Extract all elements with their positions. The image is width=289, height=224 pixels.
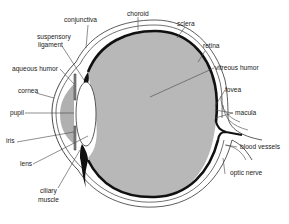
iris-lower (74, 126, 76, 150)
blood-vessels-shape (216, 122, 242, 140)
label-ligament: ligament (38, 41, 63, 49)
lens (76, 82, 96, 146)
label-macula: macula (235, 109, 257, 116)
label-iris: iris (6, 137, 15, 144)
optic-nerve-inner-lines (221, 96, 248, 160)
label-lens: lens (20, 160, 33, 167)
label-ciliary: ciliary (40, 187, 58, 195)
label-suspensory: suspensory (37, 33, 71, 41)
label-muscle: muscle (38, 196, 59, 203)
label-optic-nerve: optic nerve (230, 169, 263, 177)
label-pupil: pupil (10, 109, 24, 117)
iris-upper (74, 74, 76, 100)
label-conjunctiva: conjunctiva (64, 16, 97, 24)
aqueous-humor-region (60, 84, 74, 144)
label-choroid: choroid (127, 10, 149, 17)
label-vitreous-humor: vitreous humor (215, 64, 259, 71)
optic-nerve-sheath (228, 118, 262, 160)
label-aqueous-humor: aqueous humor (12, 65, 59, 73)
label-cornea: cornea (18, 87, 38, 94)
eye-anatomy-diagram: conjunctiva choroid sclera suspensory li… (0, 0, 289, 224)
label-sclera: sclera (177, 20, 195, 27)
vitreous-humor-region (88, 31, 217, 197)
label-fovea: fovea (225, 86, 241, 93)
label-blood-vessels: blood vessels (240, 143, 281, 150)
label-retina: retina (203, 42, 220, 49)
